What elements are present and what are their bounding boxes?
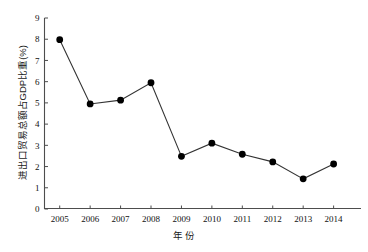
data-point-2008: [148, 79, 155, 86]
x-axis-label-text: 年 份: [173, 230, 196, 241]
x-tick-label: 2010: [203, 214, 222, 224]
y-tick-label: 2: [35, 162, 40, 172]
data-point-2011: [239, 151, 246, 158]
data-point-markers: [56, 36, 337, 182]
y-tick-label: 8: [35, 34, 40, 44]
data-point-2012: [269, 158, 276, 165]
data-point-2009: [178, 153, 185, 160]
data-series-line: [60, 40, 334, 179]
data-point-2007: [117, 97, 124, 104]
y-tick-label: 4: [35, 119, 40, 129]
data-point-2014: [330, 161, 337, 168]
x-tick-label: 2006: [81, 214, 100, 224]
y-tick-label: 3: [35, 141, 40, 151]
x-tick-label: 2005: [51, 214, 70, 224]
data-point-2005: [56, 36, 63, 43]
data-point-2013: [300, 175, 307, 182]
y-tick-label: 0: [35, 204, 40, 214]
y-tick-label: 1: [35, 183, 40, 193]
x-tick-label: 2007: [112, 214, 131, 224]
y-tick-label: 9: [35, 13, 40, 23]
data-point-2010: [208, 140, 215, 147]
x-tick-label: 2014: [325, 214, 344, 224]
x-tick-label: 2008: [142, 214, 161, 224]
y-tick-label: 6: [35, 77, 40, 87]
y-tick-label: 7: [35, 56, 40, 66]
x-tick-label: 2012: [264, 214, 282, 224]
x-tick-label: 2009: [172, 214, 191, 224]
x-axis-tick-labels: 2005200620072008200920102011201220132014: [51, 214, 343, 224]
y-tick-label: 5: [35, 98, 40, 108]
chart-figure: 0123456789 20052006200720082009201020112…: [0, 0, 368, 252]
y-axis-tick-labels: 0123456789: [35, 13, 40, 214]
x-axis-label: 年 份: [0, 228, 368, 242]
x-tick-label: 2013: [294, 214, 313, 224]
line-chart-plot: 0123456789 20052006200720082009201020112…: [0, 0, 368, 252]
data-point-2006: [87, 101, 94, 108]
x-tick-label: 2011: [233, 214, 251, 224]
